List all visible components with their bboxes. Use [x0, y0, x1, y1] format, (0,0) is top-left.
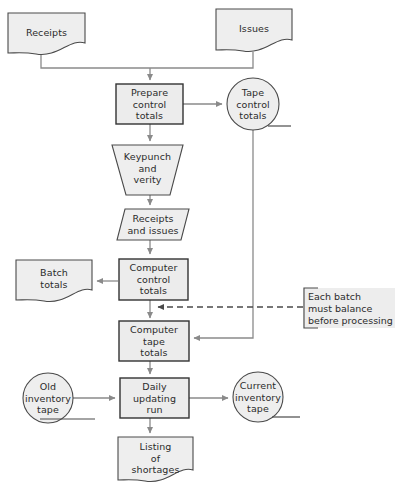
node-listing-of-shortages-shape — [118, 437, 193, 482]
flowchart-diagram: Receipts Issues Prepare control totals T… — [0, 0, 397, 489]
node-current-inventory-tape-shape — [233, 372, 283, 422]
node-computer-control-totals-shape — [119, 259, 188, 300]
node-prepare-control-totals-shape — [116, 84, 183, 124]
node-batch-totals-shape — [16, 260, 92, 302]
node-computer-tape-totals-shape — [119, 321, 189, 361]
node-old-inventory-tape-shape — [23, 373, 73, 423]
node-issues-shape — [216, 9, 292, 52]
node-receipts-and-issues-shape — [117, 209, 189, 240]
node-daily-updating-run-shape — [120, 378, 189, 418]
batch-balance-note-label: Each batch must balance before processin… — [308, 291, 396, 327]
connector-sources-merge — [41, 52, 253, 68]
node-receipts-shape — [8, 13, 85, 55]
node-tape-control-totals-shape — [227, 78, 279, 130]
node-keypunch-shape — [112, 145, 183, 195]
flowchart-canvas — [0, 0, 397, 489]
